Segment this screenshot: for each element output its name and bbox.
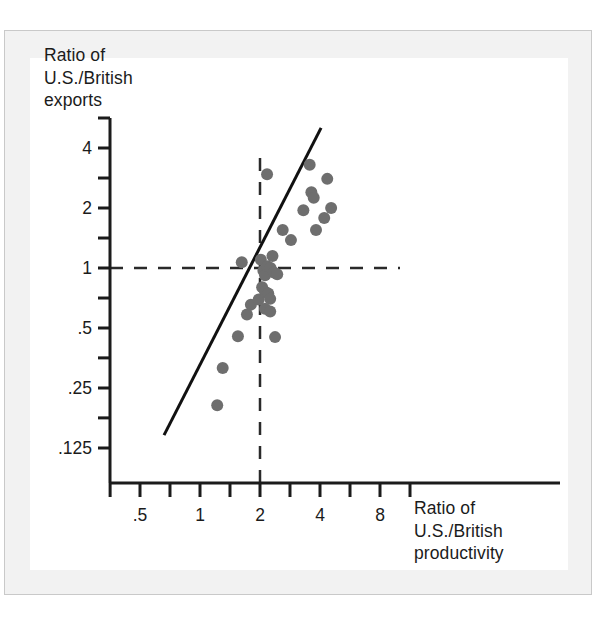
- y-tick-label: 2: [82, 198, 92, 219]
- scatter-point: [269, 331, 281, 343]
- scatter-point: [318, 212, 330, 224]
- scatter-point: [211, 399, 223, 411]
- x-axis-title: Ratio ofU.S./Britishproductivity: [414, 497, 504, 565]
- regression-line-path: [164, 128, 321, 435]
- scatter-point: [310, 224, 322, 236]
- reference-lines: [110, 158, 400, 483]
- scatter-point: [325, 202, 337, 214]
- x-tick-label: 1: [195, 505, 205, 526]
- scatter-point: [321, 173, 333, 185]
- y-tick-label: .125: [58, 438, 92, 459]
- y-axis-title-line: exports: [44, 89, 133, 112]
- figure-root: Ratio ofU.S./Britishexports Ratio ofU.S.…: [0, 0, 600, 629]
- y-axis-title-line: Ratio of: [44, 44, 133, 67]
- data-points: [211, 159, 337, 412]
- y-tick-label: .25: [68, 378, 92, 399]
- x-axis-title-line: productivity: [414, 542, 504, 565]
- y-tick-label: .5: [77, 318, 92, 339]
- y-axis-title: Ratio ofU.S./Britishexports: [44, 44, 133, 112]
- scatter-point: [297, 204, 309, 216]
- scatter-point: [308, 192, 320, 204]
- x-axis-title-line: U.S./British: [414, 520, 504, 543]
- y-tick-label: 1: [82, 258, 92, 279]
- y-axis-title-line: U.S./British: [44, 67, 133, 90]
- x-tick-label: .5: [133, 505, 148, 526]
- scatter-point: [261, 168, 273, 180]
- x-tick-label: 4: [315, 505, 325, 526]
- scatter-point: [217, 362, 229, 374]
- scatter-point: [285, 234, 297, 246]
- scatter-point: [266, 250, 278, 262]
- regression-line: [164, 128, 321, 435]
- scatter-point: [304, 159, 316, 171]
- scatter-point: [277, 224, 289, 236]
- scatter-point: [264, 305, 276, 317]
- x-axis-title-line: Ratio of: [414, 497, 504, 520]
- x-tick-label: 2: [255, 505, 265, 526]
- scatter-point: [271, 268, 283, 280]
- scatter-point: [232, 330, 244, 342]
- x-tick-label: 8: [375, 505, 385, 526]
- scatter-point: [236, 256, 248, 268]
- y-tick-label: 4: [82, 138, 92, 159]
